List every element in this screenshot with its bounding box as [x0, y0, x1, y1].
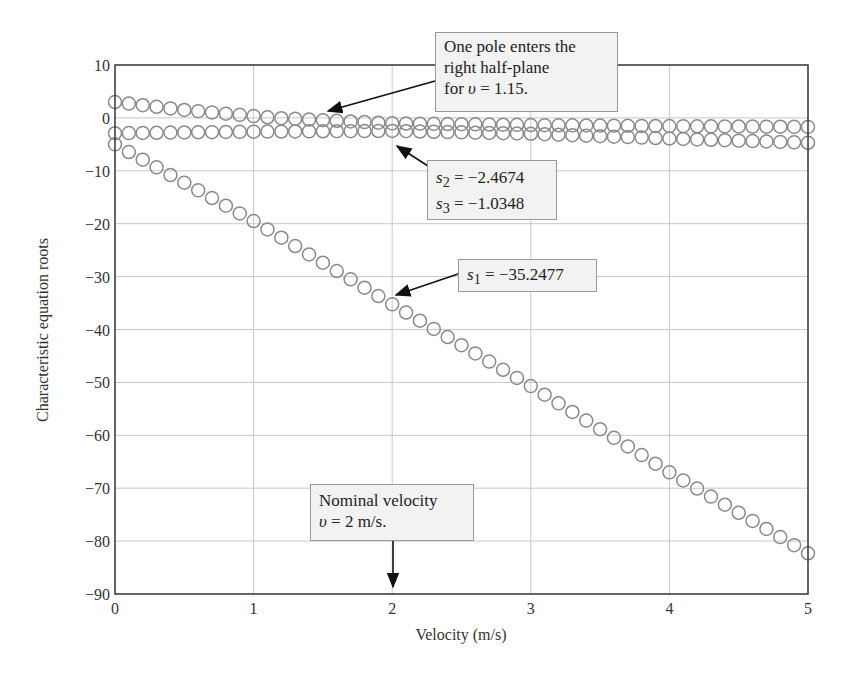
data-point-s2 [261, 125, 274, 138]
callout-rhp-line2: right half-plane [444, 57, 609, 78]
data-point-s3 [691, 120, 704, 133]
data-point-s3 [704, 120, 717, 133]
data-point-s1 [732, 506, 745, 519]
data-point-s1 [372, 290, 385, 303]
data-point-s1 [552, 397, 565, 410]
data-point-s3 [718, 120, 731, 133]
data-point-s3 [192, 105, 205, 118]
callout-s2: s2 = −2.4674 [436, 167, 548, 193]
data-point-s2 [691, 133, 704, 146]
y-tick-label: −10 [85, 163, 110, 180]
data-point-s3 [303, 113, 316, 126]
data-point-s1 [303, 248, 316, 261]
data-point-s3 [344, 115, 357, 128]
y-axis-label: Characteristic equation roots [34, 238, 52, 422]
data-point-s1 [233, 207, 246, 220]
data-point-s1 [178, 176, 191, 189]
data-point-s2 [178, 126, 191, 139]
x-tick-label: 5 [804, 600, 812, 617]
y-tick-label: 10 [94, 57, 110, 74]
data-point-s2 [150, 126, 163, 139]
data-point-s3 [427, 117, 440, 130]
data-point-s2 [303, 125, 316, 138]
data-point-s1 [330, 265, 343, 278]
data-point-s2 [122, 127, 135, 140]
var: υ [319, 512, 327, 531]
data-point-s1 [594, 423, 607, 436]
callout-nominal: Nominal velocity υ = 2 m/s. [310, 484, 474, 541]
data-point-s1 [760, 522, 773, 535]
data-point-s1 [275, 231, 288, 244]
data-point-s1 [261, 223, 274, 236]
x-tick-label: 2 [388, 600, 396, 617]
data-point-s1 [413, 314, 426, 327]
data-point-s2 [732, 134, 745, 147]
data-point-s1 [677, 474, 690, 487]
callout-nominal-line1: Nominal velocity [319, 490, 465, 511]
data-point-s3 [649, 119, 662, 132]
callout-s3: s3 = −1.0348 [436, 193, 548, 219]
data-point-s2 [746, 135, 759, 148]
data-point-s3 [677, 120, 690, 133]
data-point-s2 [427, 125, 440, 138]
x-tick-label: 1 [250, 600, 258, 617]
y-tick-label: −50 [85, 374, 110, 391]
callout-rhp: One pole enters the right half-plane for… [435, 32, 618, 112]
y-tick-label: 0 [102, 110, 110, 127]
data-point-s2 [233, 125, 246, 138]
data-point-s3 [552, 119, 565, 132]
data-point-s3 [566, 119, 579, 132]
data-point-s3 [136, 99, 149, 112]
data-point-s1 [441, 331, 454, 344]
data-point-s2 [580, 129, 593, 142]
data-point-s1 [497, 363, 510, 376]
data-point-s3 [413, 117, 426, 130]
data-point-s3 [469, 118, 482, 131]
data-point-s3 [206, 106, 219, 119]
data-point-s1 [400, 306, 413, 319]
data-point-s1 [455, 339, 468, 352]
data-point-s3 [760, 120, 773, 133]
callout-s2s3: s2 = −2.4674 s3 = −1.0348 [427, 160, 557, 220]
data-point-s3 [732, 120, 745, 133]
x-axis-label: Velocity (m/s) [415, 626, 506, 644]
data-point-s3 [774, 120, 787, 133]
data-point-s2 [219, 125, 232, 138]
data-point-s1 [746, 514, 759, 527]
data-point-s1 [635, 449, 648, 462]
callout-rhp-line3: for υ = 1.15. [444, 78, 609, 99]
data-point-s1 [136, 153, 149, 166]
data-point-s3 [510, 118, 523, 131]
s2s3-arrow [397, 146, 428, 166]
data-point-s2 [289, 125, 302, 138]
data-point-s2 [413, 125, 426, 138]
data-point-s3 [261, 111, 274, 124]
s1-arrow [396, 274, 458, 295]
y-tick-label: −60 [85, 427, 110, 444]
data-point-s2 [760, 135, 773, 148]
data-point-s1 [607, 431, 620, 444]
sub: 1 [474, 271, 481, 287]
y-tick-label: −70 [85, 480, 110, 497]
data-point-s2 [136, 126, 149, 139]
data-point-s1 [774, 531, 787, 544]
rhp-arrow [328, 81, 435, 111]
data-point-s2 [704, 133, 717, 146]
sub: 2 [443, 174, 450, 190]
data-point-s1 [469, 347, 482, 360]
data-point-s3 [788, 120, 801, 133]
data-point-s3 [233, 108, 246, 121]
data-point-s1 [621, 440, 634, 453]
data-point-s2 [718, 134, 731, 147]
data-point-s3 [441, 118, 454, 131]
data-point-s1 [289, 240, 302, 253]
data-point-s2 [788, 136, 801, 149]
data-point-s1 [219, 199, 232, 212]
data-point-s2 [774, 135, 787, 148]
data-point-s1 [150, 161, 163, 174]
data-point-s3 [746, 120, 759, 133]
data-point-s2 [206, 126, 219, 139]
data-point-s3 [289, 112, 302, 125]
data-point-s1 [566, 405, 579, 418]
data-point-s2 [164, 126, 177, 139]
